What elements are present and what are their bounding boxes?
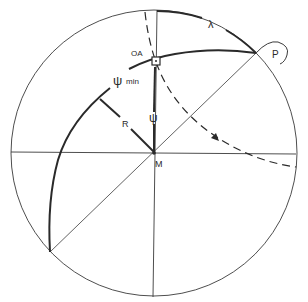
label-r: R: [122, 119, 129, 129]
lambda-arc: [157, 11, 202, 18]
label-lambda: λ: [208, 18, 214, 30]
circle-geometry-diagram: OA λ P ψ min R ψ M: [0, 0, 308, 302]
r-line: [100, 99, 120, 117]
label-oa: OA: [131, 49, 143, 58]
psi-line: [154, 67, 155, 112]
psi-min-arc: [49, 88, 110, 252]
label-m: M: [155, 159, 163, 169]
label-psi-min-symbol: ψ: [113, 73, 122, 88]
label-psi: ψ: [149, 111, 158, 125]
dashed-trajectory: [145, 12, 296, 167]
label-p: P: [272, 49, 279, 60]
label-psi-min-sub: min: [126, 77, 139, 86]
r-line-lower: [131, 129, 154, 152]
oa-to-p-arc: [129, 50, 256, 69]
oa-dot: [155, 60, 157, 62]
m-point: [152, 151, 156, 155]
